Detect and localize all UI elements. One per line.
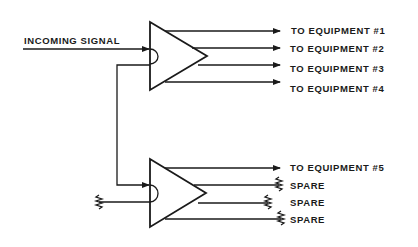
loop-through-line <box>117 65 150 185</box>
spare-label-3: SPARE <box>290 215 325 225</box>
spare-3-resistor-icon <box>278 211 284 225</box>
spare-label-2: SPARE <box>290 198 325 208</box>
spare-1-resistor-icon <box>276 177 282 191</box>
amplifier-1-triangle-icon <box>150 22 207 90</box>
spare-2-resistor-icon <box>265 195 271 209</box>
output-label-4: TO EQUIPMENT #4 <box>290 84 384 94</box>
output-label-5: TO EQUIPMENT #5 <box>290 163 384 173</box>
spare-label-1: SPARE <box>290 181 325 191</box>
incoming-signal-label: INCOMING SIGNAL <box>24 36 120 46</box>
amplifier-2-triangle-icon <box>150 159 206 227</box>
output-label-3: TO EQUIPMENT #3 <box>290 64 384 74</box>
output-label-1: TO EQUIPMENT #1 <box>291 26 385 36</box>
output-label-2: TO EQUIPMENT #2 <box>290 44 384 54</box>
